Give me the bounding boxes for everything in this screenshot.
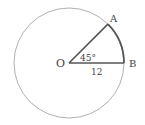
arc-ab xyxy=(108,24,124,63)
angle-label: 45° xyxy=(80,53,96,63)
radius-label: 12 xyxy=(91,67,102,77)
label-b: B xyxy=(129,58,136,69)
circle-sector-diagram: O A B 45° 12 xyxy=(0,0,145,125)
label-o: O xyxy=(56,57,65,70)
label-a: A xyxy=(109,13,118,24)
